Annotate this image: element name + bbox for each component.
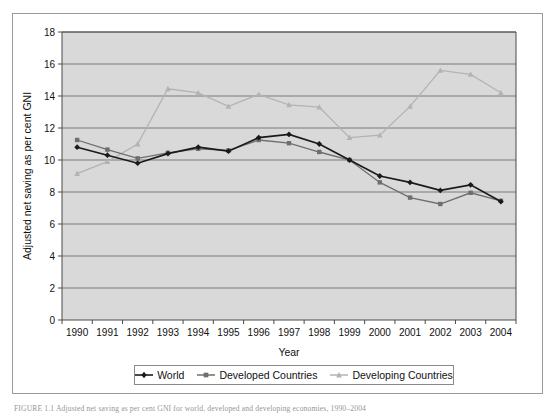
data-point-marker xyxy=(408,195,412,199)
data-point-marker xyxy=(438,202,442,206)
y-tick-label: 12 xyxy=(44,123,56,134)
x-tick-label: 1997 xyxy=(278,327,301,338)
legend-label-world: World xyxy=(157,369,184,381)
y-tick-label: 2 xyxy=(49,283,55,294)
legend-label-developed: Developed Countries xyxy=(219,369,317,381)
data-point-marker xyxy=(105,147,109,151)
x-axis-label: Year xyxy=(278,346,300,358)
x-tick-label: 1993 xyxy=(157,327,180,338)
x-tick-label: 2004 xyxy=(490,327,513,338)
legend-key-developed-icon xyxy=(197,370,215,380)
x-tick-label: 1995 xyxy=(217,327,240,338)
data-point-marker xyxy=(468,191,472,195)
legend-key-world-icon xyxy=(135,370,153,380)
y-axis-label: Adjusted net saving as per cent GNI xyxy=(21,92,33,260)
x-tick-label: 2002 xyxy=(429,327,452,338)
y-axis-title: Adjusted net saving as per cent GNI xyxy=(21,92,33,260)
figure-root: 024681012141618 199019911992199319941995… xyxy=(0,0,556,414)
x-tick-label: 1996 xyxy=(248,327,271,338)
chart-container: 024681012141618 199019911992199319941995… xyxy=(0,0,556,414)
data-point-marker xyxy=(135,156,139,160)
y-tick-label: 0 xyxy=(49,315,55,326)
plot-background xyxy=(62,32,516,320)
x-tick-label: 1991 xyxy=(96,327,119,338)
x-tick-label: 2001 xyxy=(399,327,422,338)
data-point-marker xyxy=(287,141,291,145)
y-tick-label: 4 xyxy=(49,251,55,262)
chart-legend: World Developed Countries Developing Cou… xyxy=(134,365,454,385)
figure-caption: FIGURE 1.1 Adjusted net saving as per ce… xyxy=(14,404,542,413)
data-point-marker xyxy=(317,150,321,154)
x-tick-label: 2003 xyxy=(459,327,482,338)
y-tick-label: 10 xyxy=(44,155,56,166)
legend-key-developing-icon xyxy=(330,370,348,380)
x-tick-label: 1998 xyxy=(308,327,331,338)
x-tick-label: 1994 xyxy=(187,327,210,338)
y-tick-label: 18 xyxy=(44,27,56,38)
x-tick-label: 1990 xyxy=(66,327,89,338)
legend-item-developed[interactable]: Developed Countries xyxy=(197,369,317,381)
y-tick-label: 14 xyxy=(44,91,56,102)
x-axis-title: Year xyxy=(278,346,300,358)
data-point-marker xyxy=(378,180,382,184)
data-point-marker xyxy=(75,138,79,142)
y-tick-label: 6 xyxy=(49,219,55,230)
y-tick-label: 16 xyxy=(44,59,56,70)
x-axis-ticks: 1990199119921993199419951996199719981999… xyxy=(62,320,516,338)
line-chart: 024681012141618 199019911992199319941995… xyxy=(0,0,556,414)
legend-item-world[interactable]: World xyxy=(135,369,184,381)
legend-label-developing: Developing Countries xyxy=(352,369,452,381)
x-tick-label: 1992 xyxy=(127,327,150,338)
y-axis-ticks: 024681012141618 xyxy=(44,27,62,326)
legend-item-developing[interactable]: Developing Countries xyxy=(330,369,452,381)
x-tick-label: 2000 xyxy=(369,327,392,338)
x-tick-label: 1999 xyxy=(338,327,361,338)
y-tick-label: 8 xyxy=(49,187,55,198)
